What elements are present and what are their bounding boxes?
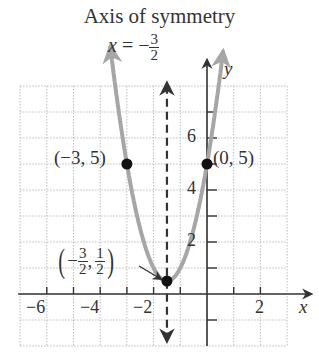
paren-open: (	[58, 242, 65, 280]
vy-den: 2	[96, 262, 104, 277]
eq-num: 3	[149, 32, 159, 48]
x-tick-label: −4	[80, 297, 99, 318]
vertex-x-frac: 32	[78, 246, 88, 277]
x-tick-label: −6	[26, 297, 45, 318]
y-tick-label: 6	[187, 126, 196, 147]
chart-canvas	[0, 0, 319, 357]
data-point	[202, 159, 213, 170]
y-tick-label: 4	[187, 178, 196, 199]
eq-fraction: 32	[149, 32, 159, 63]
vertex-sign: −	[67, 250, 78, 272]
eq-lhs: x	[108, 34, 117, 56]
vertex-comma: ,	[88, 250, 93, 272]
point-label-left: (−3, 5)	[54, 147, 106, 169]
x-axis-label: x	[299, 296, 307, 318]
chart-title: Axis of symmetry	[0, 4, 319, 29]
x-tick-label: 2	[255, 297, 264, 318]
data-point	[121, 159, 132, 170]
axis-equation: x = −32	[108, 32, 159, 63]
y-axis-label: y	[224, 58, 232, 80]
point-label-right: (0, 5)	[213, 147, 254, 169]
eq-op: =	[122, 34, 133, 56]
paren-close: )	[107, 242, 114, 280]
vx-den: 2	[79, 262, 87, 277]
y-tick-label: 2	[187, 230, 196, 251]
vy-num: 1	[95, 246, 105, 262]
vx-num: 3	[78, 246, 88, 262]
eq-den: 2	[150, 48, 158, 63]
vertex-y-frac: 12	[95, 246, 105, 277]
x-tick-label: −2	[133, 297, 152, 318]
data-point	[161, 276, 172, 287]
vertex-label: ( − 32 , 12 )	[56, 242, 116, 280]
eq-sign: −	[138, 34, 149, 56]
